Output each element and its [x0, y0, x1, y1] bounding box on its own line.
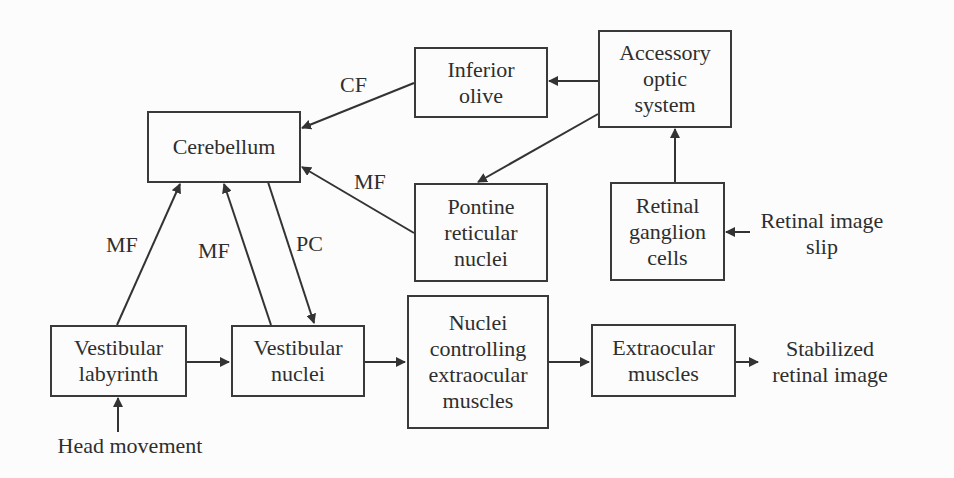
node-extraocular-muscles: Extraocular muscles [591, 324, 736, 397]
node-label: extraocular [429, 362, 528, 388]
node-label: Nuclei [429, 310, 528, 336]
node-vestibular-nuclei: Vestibular nuclei [231, 325, 365, 397]
edge-label-pc: PC [296, 231, 323, 257]
node-label: controlling [429, 336, 528, 362]
node-label: muscles [429, 388, 528, 414]
output-label: Stabilized [755, 336, 905, 362]
node-label: optic [619, 66, 711, 92]
node-label: nuclei [444, 246, 517, 272]
node-label: Retinal [629, 193, 706, 219]
vor-diagram: Cerebellum Inferior olive Accessory opti… [0, 0, 954, 478]
node-cerebellum: Cerebellum [147, 111, 301, 183]
node-inferior-olive: Inferior olive [414, 47, 548, 118]
node-label: olive [447, 83, 514, 109]
node-label: reticular [444, 220, 517, 246]
edge-label-mf-nuclei: MF [198, 238, 230, 264]
input-label: Retinal image [752, 208, 892, 234]
node-label: Extraocular [612, 335, 715, 361]
input-retinal-image-slip: Retinal image slip [752, 208, 892, 260]
node-nuclei-controlling-extraocular-muscles: Nuclei controlling extraocular muscles [407, 295, 549, 429]
node-label: nuclei [253, 361, 342, 387]
node-label: ganglion [629, 219, 706, 245]
node-label: muscles [612, 361, 715, 387]
node-label: Inferior [447, 57, 514, 83]
node-label: system [619, 92, 711, 118]
node-retinal-ganglion-cells: Retinal ganglion cells [610, 182, 725, 281]
input-label: slip [752, 234, 892, 260]
edge-label-cf: CF [340, 72, 367, 98]
node-label: Cerebellum [173, 134, 276, 160]
node-label: Vestibular [74, 335, 163, 361]
input-head-movement: Head movement [30, 433, 230, 459]
node-accessory-optic-system: Accessory optic system [598, 30, 732, 128]
output-label: retinal image [755, 362, 905, 388]
input-label: Head movement [30, 433, 230, 459]
node-label: cells [629, 245, 706, 271]
node-label: Vestibular [253, 335, 342, 361]
node-vestibular-labyrinth: Vestibular labyrinth [50, 325, 187, 397]
node-pontine-reticular-nuclei: Pontine reticular nuclei [414, 183, 548, 282]
edge-label-mf-labyrinth: MF [106, 232, 138, 258]
edge-label-mf-pontine: MF [354, 169, 386, 195]
node-label: labyrinth [74, 361, 163, 387]
output-stabilized-retinal-image: Stabilized retinal image [755, 336, 905, 388]
node-label: Accessory [619, 40, 711, 66]
node-label: Pontine [444, 194, 517, 220]
